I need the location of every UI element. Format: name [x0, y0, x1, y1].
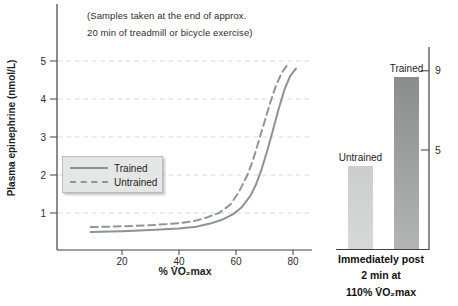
legend-label-trained: Trained	[114, 163, 148, 174]
caption-line-1: Immediately post	[320, 251, 442, 267]
x-tick-label-60: 60	[224, 255, 248, 268]
legend-label-untrained: Untrained	[114, 177, 157, 188]
y-tick-label-5: 5	[28, 55, 46, 68]
bar-label-trained: Trained	[375, 62, 439, 75]
x-tick-label-80: 80	[281, 255, 305, 268]
bar-untrained	[348, 166, 373, 249]
annotation-line-2: 20 min of treadmill or bicycle exercise)	[87, 25, 253, 42]
y-axis-label: Plasma epinephrine (nmol/L)	[6, 18, 20, 238]
legend-row-trained: Trained	[70, 161, 162, 175]
y-tick-label-2: 2	[28, 169, 46, 182]
legend-row-untrained: Untrained	[70, 175, 162, 189]
caption-line-3: 110% V̇O₂max	[320, 284, 442, 300]
untrained-curve	[91, 65, 288, 227]
trained-line-sample	[70, 167, 108, 169]
annotation-line-1: (Samples taken at the end of approx.	[87, 8, 253, 25]
caption-line-2: 2 min at	[320, 267, 442, 283]
bar-trained	[394, 77, 419, 249]
bar-label-untrained: Untrained	[329, 151, 393, 164]
y-tick-label-1: 1	[28, 207, 46, 220]
x-tick-label-40: 40	[167, 255, 191, 268]
trained-curve	[91, 69, 296, 232]
figure: (Samples taken at the end of approx. 20 …	[0, 0, 458, 306]
untrained-line-sample	[70, 181, 108, 183]
bar-chart-caption: Immediately post 2 min at 110% V̇O₂max	[320, 251, 442, 300]
y-tick-label-4: 4	[28, 93, 46, 106]
x-tick-label-20: 20	[110, 255, 134, 268]
legend: Trained Untrained	[62, 156, 163, 193]
y-tick-label-3: 3	[28, 131, 46, 144]
bar-tick-label-5: 5	[435, 144, 449, 157]
annotation: (Samples taken at the end of approx. 20 …	[87, 8, 253, 41]
